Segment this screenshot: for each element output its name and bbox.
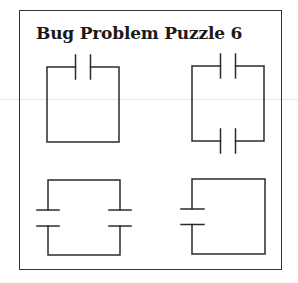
circuit-3-wire-bottom — [48, 226, 120, 255]
circuit-1-wire — [47, 67, 119, 142]
circuit-3-wire-top — [48, 180, 120, 210]
circuit-diagrams — [0, 0, 298, 283]
circuit-2 — [192, 54, 264, 153]
circuit-1 — [47, 55, 119, 142]
circuit-4 — [181, 179, 265, 254]
circuit-3 — [37, 180, 131, 255]
circuit-2-wire-left — [192, 66, 221, 141]
circuit-2-wire-right — [236, 66, 265, 141]
circuit-4-wire — [192, 179, 265, 254]
